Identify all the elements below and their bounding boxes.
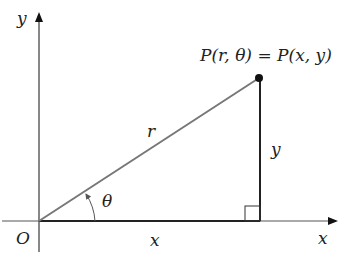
adjacent-label: x — [150, 230, 160, 250]
radius-line — [39, 78, 259, 221]
angle-arc — [86, 194, 95, 221]
point-p — [255, 74, 263, 82]
radius-label: r — [147, 121, 156, 141]
right-angle-marker — [245, 206, 260, 221]
x-axis-label: x — [318, 228, 328, 248]
origin-label: O — [16, 228, 30, 248]
point-label: P(r, θ) = P(x, y) — [199, 45, 332, 65]
opposite-label: y — [270, 139, 281, 159]
angle-label: θ — [102, 191, 112, 211]
y-axis-label: y — [16, 8, 27, 28]
polar-coordinates-diagram: y x O P(r, θ) = P(x, y) r θ x y — [0, 0, 344, 257]
